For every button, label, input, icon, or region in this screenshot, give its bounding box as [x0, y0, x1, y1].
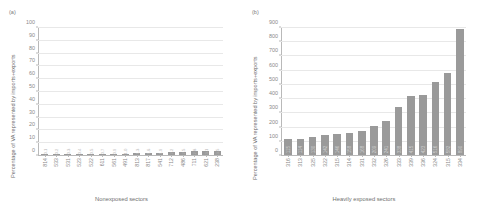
bar-value-label: 423 [421, 146, 426, 154]
x-axis-tick-label: 238 [214, 158, 220, 167]
bar-group[interactable]: 158314 [343, 28, 355, 155]
y-axis-tick-label: 800 [269, 33, 278, 39]
x-axis-tick-label: 621 [203, 158, 209, 167]
y-axis-tick-mark [279, 140, 281, 141]
bar-group[interactable]: 0.4523 [74, 28, 86, 155]
x-axis-tick-label: 486 [180, 158, 186, 167]
bar[interactable]: 142 [321, 135, 329, 155]
bar-group[interactable]: 2.8711 [189, 28, 201, 155]
x-axis-tick-label: 523 [76, 158, 82, 167]
bar-group[interactable]: 0.5522 [85, 28, 97, 155]
x-axis-tick-label: 611 [99, 158, 105, 166]
y-axis-tick-label: 60 [29, 70, 35, 76]
bar-group[interactable]: 338333 [392, 28, 404, 155]
bar-group[interactable]: 3.1621 [200, 28, 212, 155]
bar-group[interactable]: 0.3531 [62, 28, 74, 155]
bar-group[interactable]: 423336 [417, 28, 429, 155]
bar-group[interactable]: 1.6817 [143, 28, 155, 155]
bar-group[interactable]: 241326 [380, 28, 392, 155]
bar-group[interactable]: 415339 [405, 28, 417, 155]
y-axis-tick-mark [36, 39, 38, 40]
bar-group[interactable]: 516324 [429, 28, 441, 155]
bar[interactable]: 168 [358, 131, 366, 155]
x-axis-tick-label: 336 [420, 158, 426, 167]
y-axis-tick-label: 20 [29, 121, 35, 127]
bar[interactable]: 209 [370, 126, 378, 155]
x-axis-tick-label: 334 [457, 158, 463, 167]
bar[interactable]: 338 [395, 107, 403, 155]
y-axis-tick-label: 0 [275, 147, 278, 153]
bar-value-label: 0.5 [88, 149, 93, 155]
panel-a-bar-series: 0.18140.25330.35310.45230.55220.76110.95… [39, 28, 223, 155]
x-axis-tick-label: 315 [445, 158, 451, 167]
y-axis-tick-label: 100 [26, 19, 35, 25]
bar-value-label: 338 [396, 146, 401, 154]
bar-group[interactable]: 0.7611 [97, 28, 109, 155]
y-axis-tick-label: 90 [29, 32, 35, 38]
bar[interactable]: 158 [346, 133, 354, 155]
y-axis-tick-mark [36, 142, 38, 143]
bar-group[interactable]: 130325 [307, 28, 319, 155]
y-axis-tick-label: 40 [29, 96, 35, 102]
bar[interactable]: 423 [419, 95, 427, 155]
bar-group[interactable]: 115316 [282, 28, 294, 155]
bar-group[interactable]: 0.9561 [108, 28, 120, 155]
bar-group[interactable]: 168331 [356, 28, 368, 155]
bar[interactable]: 516 [432, 82, 440, 155]
bar-group[interactable]: 582315 [441, 28, 453, 155]
y-axis-tick-mark [279, 41, 281, 42]
panel-a-x-axis-line [38, 155, 223, 156]
x-axis-tick-label: 331 [359, 158, 365, 167]
y-axis-tick-mark [279, 69, 281, 70]
bar[interactable]: 130 [309, 137, 317, 155]
bar-group[interactable]: 114313 [294, 28, 306, 155]
bar-group[interactable]: 2.5486 [177, 28, 189, 155]
panel-a-tag: (a) [9, 9, 16, 15]
bar-group[interactable]: 1.0491 [120, 28, 132, 155]
bar[interactable]: 415 [407, 96, 415, 155]
bar-value-label: 3.1 [203, 149, 208, 155]
figure-two-panel-bar-charts: (a) Percentage of VA represented by impo… [0, 0, 485, 212]
bar-value-label: 2.5 [180, 149, 185, 155]
bar[interactable]: 890 [456, 29, 464, 155]
bar-group[interactable]: 3.5238 [212, 28, 224, 155]
bar[interactable]: 146 [333, 134, 341, 155]
bar-group[interactable]: 209332 [368, 28, 380, 155]
y-axis-tick-label: 80 [29, 45, 35, 51]
y-axis-tick-label: 0 [32, 147, 35, 153]
x-axis-tick-label: 314 [346, 158, 352, 167]
x-axis-tick-label: 491 [122, 158, 128, 167]
bar[interactable]: 582 [444, 73, 452, 155]
bar-group[interactable]: 2.2712 [166, 28, 178, 155]
bar-value-label: 0.1 [42, 149, 47, 155]
bar-group[interactable]: 142322 [319, 28, 331, 155]
bar-value-label: 0.2 [54, 149, 59, 155]
bar-group[interactable]: 146315 [331, 28, 343, 155]
bar-group[interactable]: 0.1814 [39, 28, 51, 155]
bar-value-label: 1.9 [157, 149, 162, 155]
bar[interactable]: 114 [297, 139, 305, 155]
x-axis-tick-label: 561 [111, 158, 117, 167]
bar-value-label: 890 [457, 146, 462, 154]
panel-a-plot-area: 0102030405060708090100 0.18140.25330.353… [38, 28, 223, 156]
y-axis-tick-label: 500 [269, 76, 278, 82]
bar[interactable]: 241 [382, 121, 390, 155]
x-axis-tick-label: 324 [432, 158, 438, 167]
x-axis-tick-label: 326 [383, 158, 389, 167]
x-axis-tick-label: 813 [134, 158, 140, 167]
y-axis-tick-mark [36, 116, 38, 117]
bar-group[interactable]: 0.2533 [51, 28, 63, 155]
bar-group[interactable]: 890334 [454, 28, 466, 155]
bar-value-label: 0.3 [65, 149, 70, 155]
bar[interactable]: 115 [284, 139, 292, 155]
y-axis-tick-mark [279, 27, 281, 28]
x-axis-tick-label: 332 [371, 158, 377, 167]
bar-value-label: 582 [445, 146, 450, 154]
panel-b-bar-series: 1153161143131303251423221463151583141683… [282, 28, 466, 155]
bar-value-label: 2.8 [192, 149, 197, 155]
y-axis-tick-mark [36, 129, 38, 130]
bar-group[interactable]: 1.3813 [131, 28, 143, 155]
x-axis-tick-label: 814 [42, 158, 48, 167]
bar-value-label: 158 [347, 146, 352, 154]
bar-group[interactable]: 1.9541 [154, 28, 166, 155]
